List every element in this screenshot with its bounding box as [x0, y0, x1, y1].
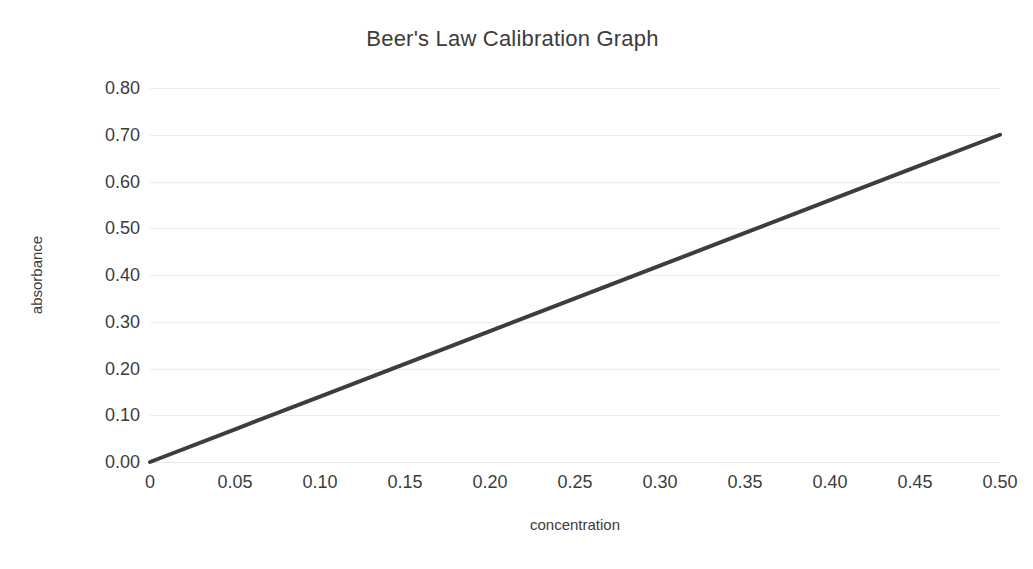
- y-tick-label: 0.60: [20, 171, 140, 192]
- plot-area: [150, 88, 1000, 462]
- gridline: [150, 462, 1000, 463]
- series-layer: [150, 88, 1000, 462]
- x-tick-label: 0.50: [950, 472, 1033, 493]
- y-tick-label: 0.10: [20, 405, 140, 426]
- y-tick-label: 0.00: [20, 452, 140, 473]
- chart-container: Beer's Law Calibration Graph 0.000.100.2…: [0, 0, 1033, 569]
- calibration-line: [150, 135, 1000, 462]
- chart-title-text: Beer's Law Calibration Graph: [366, 26, 658, 51]
- x-axis-title: concentration: [150, 516, 1000, 533]
- y-tick-label: 0.20: [20, 358, 140, 379]
- y-tick-label: 0.80: [20, 78, 140, 99]
- y-tick-label: 0.30: [20, 311, 140, 332]
- y-tick-label: 0.70: [20, 124, 140, 145]
- chart-title: Beer's Law Calibration Graph: [0, 26, 1033, 52]
- y-axis-title: absorbance: [28, 236, 45, 314]
